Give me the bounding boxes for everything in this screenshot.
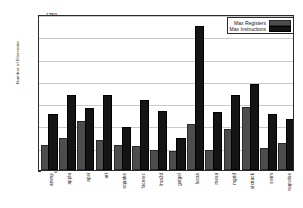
- bar-max-instructions-mgrid: [231, 95, 240, 170]
- x-tick-label-facerec: facerec: [141, 173, 146, 208]
- legend: Max RegistersMax Instructions: [227, 17, 294, 34]
- bar-max-instructions-facerec: [140, 100, 149, 170]
- legend-swatch-ins: [269, 26, 291, 32]
- x-tick-label-lucas: lucas: [195, 173, 200, 208]
- gridline: [39, 38, 293, 39]
- x-tick-label-sixtrack: sixtrack: [250, 173, 255, 208]
- bar-max-instructions-art: [103, 95, 112, 170]
- x-tick-label-art: art: [104, 173, 109, 208]
- gridline: [39, 61, 293, 62]
- x-tick-label-wupwise: wupwise: [287, 173, 292, 208]
- x-tick-label-apsi: apsi: [86, 173, 91, 208]
- bar-max-instructions-swim: [268, 114, 277, 170]
- legend-label: Max Instructions: [230, 26, 266, 32]
- bar-max-instructions-sixtrack: [250, 84, 259, 170]
- bar-max-instructions-lucas: [195, 26, 204, 170]
- x-tick-label-mgrid: mgrid: [232, 173, 237, 208]
- y-axis-title: Number of Elements: [15, 8, 20, 118]
- x-tick-label-mesa: mesa: [214, 173, 219, 208]
- plot-area: [38, 15, 294, 171]
- x-tick-label-equake: equake: [122, 173, 127, 208]
- x-tick-label-galgel: galgel: [177, 173, 182, 208]
- bar-max-instructions-apsi: [85, 108, 94, 170]
- bar-max-instructions-galgel: [176, 138, 185, 170]
- bar-max-instructions-wupwise: [286, 119, 294, 170]
- bar-max-instructions-ammp: [48, 114, 57, 170]
- bar-chart: Number of Elements 025050075010001250150…: [0, 0, 303, 208]
- bar-max-instructions-applu: [67, 95, 76, 170]
- y-tick-mark: [38, 171, 41, 172]
- bar-max-instructions-fma3d: [158, 111, 167, 170]
- x-tick-label-ammp: ammp: [49, 173, 54, 208]
- x-tick-label-fma3d: fma3d: [159, 173, 164, 208]
- bar-max-instructions-equake: [122, 127, 131, 170]
- x-tick-label-swim: swim: [269, 173, 274, 208]
- bar-max-instructions-mesa: [213, 112, 222, 170]
- x-tick-label-applu: applu: [67, 173, 72, 208]
- legend-item-ins: Max Instructions: [230, 26, 291, 32]
